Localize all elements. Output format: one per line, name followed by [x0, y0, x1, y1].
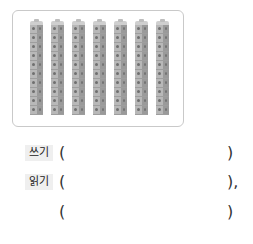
unit-cube — [93, 70, 106, 79]
unit-cube — [30, 79, 43, 88]
unit-cube — [30, 70, 43, 79]
close-paren: ) — [227, 145, 233, 161]
unit-cube — [72, 52, 85, 61]
unit-cube — [156, 61, 169, 70]
unit-cube — [135, 61, 148, 70]
unit-cube — [156, 43, 169, 52]
unit-cube — [156, 34, 169, 43]
unit-cube — [93, 106, 106, 115]
answer-row-read-alt: ( ) — [25, 203, 240, 221]
unit-cube — [72, 34, 85, 43]
unit-cube — [30, 97, 43, 106]
write-label: 쓰기 — [25, 145, 53, 161]
unit-cube — [135, 88, 148, 97]
close-paren: ) — [227, 204, 233, 220]
unit-cube — [114, 106, 127, 115]
unit-cube — [30, 88, 43, 97]
unit-cube — [93, 25, 106, 34]
unit-cube — [93, 52, 106, 61]
read-label: 읽기 — [25, 174, 53, 190]
unit-cube — [114, 52, 127, 61]
unit-cube — [51, 97, 64, 106]
unit-cube — [93, 61, 106, 70]
unit-cube — [30, 34, 43, 43]
unit-cube — [72, 70, 85, 79]
unit-cube — [114, 25, 127, 34]
unit-cube — [135, 70, 148, 79]
unit-cube — [114, 34, 127, 43]
open-paren: ( — [59, 204, 65, 220]
unit-cube — [72, 88, 85, 97]
unit-cube — [72, 61, 85, 70]
unit-cube — [114, 79, 127, 88]
unit-cube — [135, 52, 148, 61]
unit-cube — [114, 70, 127, 79]
unit-cube — [51, 61, 64, 70]
unit-cube — [72, 25, 85, 34]
figure-frame — [12, 10, 184, 127]
unit-cube — [135, 25, 148, 34]
unit-cube — [135, 106, 148, 115]
ten-rod — [30, 21, 43, 115]
unit-cube — [93, 43, 106, 52]
ten-rod — [114, 21, 127, 115]
open-paren: ( — [59, 174, 65, 190]
unit-cube — [72, 106, 85, 115]
unit-cube — [51, 88, 64, 97]
unit-cube — [156, 70, 169, 79]
unit-cube — [156, 97, 169, 106]
unit-cube — [30, 106, 43, 115]
ten-rod — [93, 21, 106, 115]
unit-cube — [72, 97, 85, 106]
unit-cube — [156, 25, 169, 34]
open-paren: ( — [59, 145, 65, 161]
unit-cube — [114, 97, 127, 106]
unit-cube — [135, 79, 148, 88]
unit-cube — [93, 88, 106, 97]
unit-cube — [51, 34, 64, 43]
answer-row-write: 쓰기 ( ) — [25, 144, 240, 162]
unit-cube — [51, 70, 64, 79]
read-answer-field-2[interactable] — [71, 204, 221, 220]
empty-label — [25, 211, 53, 213]
unit-cube — [72, 79, 85, 88]
write-answer-field[interactable] — [71, 145, 221, 161]
ten-rod — [72, 21, 85, 115]
ten-rod — [156, 21, 169, 115]
unit-cube — [135, 34, 148, 43]
unit-cube — [93, 34, 106, 43]
answer-row-read: 읽기 ( ), — [25, 173, 240, 191]
unit-cube — [51, 106, 64, 115]
unit-cube — [93, 79, 106, 88]
unit-cube — [156, 88, 169, 97]
unit-cube — [51, 25, 64, 34]
unit-cube — [156, 52, 169, 61]
unit-cube — [114, 43, 127, 52]
unit-cube — [51, 43, 64, 52]
ten-rods-group — [30, 21, 175, 121]
unit-cube — [114, 61, 127, 70]
unit-cube — [114, 88, 127, 97]
unit-cube — [30, 25, 43, 34]
unit-cube — [30, 61, 43, 70]
unit-cube — [30, 52, 43, 61]
close-paren: ), — [227, 174, 238, 190]
unit-cube — [30, 43, 43, 52]
unit-cube — [72, 43, 85, 52]
unit-cube — [93, 97, 106, 106]
unit-cube — [51, 79, 64, 88]
unit-cube — [135, 97, 148, 106]
unit-cube — [51, 52, 64, 61]
unit-cube — [135, 43, 148, 52]
ten-rod — [51, 21, 64, 115]
ten-rod — [135, 21, 148, 115]
read-answer-field-1[interactable] — [71, 174, 221, 190]
unit-cube — [156, 79, 169, 88]
unit-cube — [156, 106, 169, 115]
